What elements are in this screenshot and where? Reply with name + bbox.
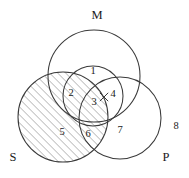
set-label-P: P — [163, 150, 170, 164]
set-label-M: M — [91, 8, 102, 22]
venn-diagram-figure: M S P 1 2 3 4 5 6 7 8 — [0, 0, 189, 178]
region-label-6: 6 — [85, 128, 90, 139]
region-label-3: 3 — [91, 96, 96, 107]
set-label-S: S — [10, 150, 17, 164]
region-label-5: 5 — [59, 126, 64, 137]
region-label-7: 7 — [117, 124, 122, 135]
venn-diagram-canvas: M S P 1 2 3 4 5 6 7 8 — [0, 0, 189, 178]
region-label-2: 2 — [68, 87, 73, 98]
region-label-4: 4 — [110, 88, 116, 99]
region-label-8: 8 — [173, 120, 178, 131]
region-label-1: 1 — [90, 65, 95, 76]
